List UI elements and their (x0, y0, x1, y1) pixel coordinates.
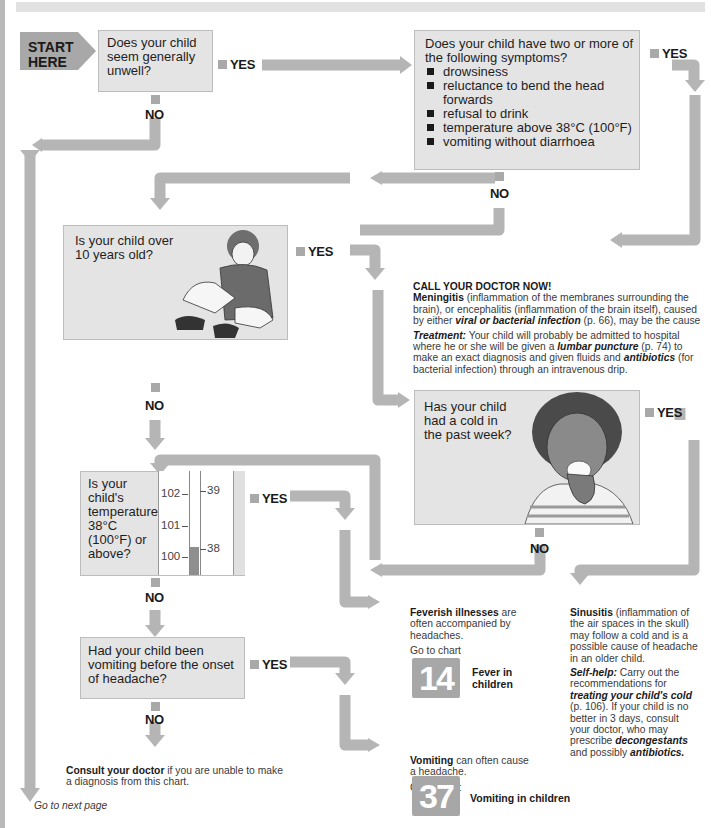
celsius-39: 39 (207, 484, 220, 496)
chart-37-title[interactable]: Vomiting in children (470, 792, 590, 804)
feverish-illnesses-note: Feverish illnesses are often accompanied… (410, 607, 520, 657)
link-decongestants[interactable]: decongestants (615, 735, 688, 746)
chart-14-title[interactable]: Fever in children (472, 666, 522, 690)
link-antibiotics[interactable]: antibiotics. (630, 747, 684, 758)
no-marker (495, 172, 504, 181)
thermometer-scale: 102 101 100 39 38 (158, 471, 245, 575)
symptom-item: temperature above 38°C (100°F) (425, 121, 637, 135)
celsius-38: 38 (207, 542, 220, 554)
fahrenheit-101: 101 (161, 519, 180, 531)
q5-yes-label: YES (262, 491, 287, 506)
symptom-item: refusal to drink (425, 107, 637, 121)
yes-marker (250, 494, 259, 503)
child-blowing-nose-illustration (515, 392, 639, 524)
no-marker (535, 528, 544, 537)
question-generally-unwell-text: Does your child seem generally unwell? (107, 36, 207, 78)
chart-37-link[interactable]: 37 (412, 776, 460, 816)
symptom-item: reluctance to bend the head forwards (425, 79, 637, 107)
thermometer-mercury (190, 547, 199, 575)
q6-no-label: NO (145, 712, 164, 727)
consult-doctor-note: Consult your doctor if you are unable to… (66, 765, 286, 788)
no-marker (151, 95, 160, 104)
question-symptoms-text: Does your child have two or more of the … (425, 37, 637, 149)
q3-no-label: NO (145, 398, 164, 413)
symptom-list: drowsiness reluctance to bend the head f… (425, 65, 637, 149)
fahrenheit-102: 102 (161, 487, 180, 499)
meningitis-advice: CALL YOUR DOCTOR NOW! Meningitis (inflam… (413, 281, 708, 375)
link-treating-cold[interactable]: treating your child's cold (570, 690, 692, 701)
question-vomiting-before-text: Had your child been vomiting before the … (88, 644, 243, 686)
chart-14-link[interactable]: 14 (412, 658, 460, 698)
yes-marker (645, 408, 654, 417)
go-to-next-page-link[interactable]: Go to next page (34, 800, 107, 811)
symptom-item: drowsiness (425, 65, 637, 79)
start-here-label: START HERE (28, 40, 74, 70)
q1-yes-label: YES (230, 57, 255, 72)
yes-marker (650, 49, 659, 58)
q4-yes-label: YES (657, 405, 682, 420)
symptom-item: vomiting without diarrhoea (425, 135, 637, 149)
link-antibiotics[interactable]: antibiotics (624, 352, 676, 363)
q5-no-label: NO (145, 590, 164, 605)
q6-yes-label: YES (262, 657, 287, 672)
no-marker (151, 383, 160, 392)
q4-no-label: NO (530, 541, 549, 556)
yes-marker (296, 247, 305, 256)
fahrenheit-100: 100 (161, 550, 180, 562)
question-over-10-text: Is your child over 10 years old? (75, 234, 175, 262)
question-cold-past-week-text: Has your child had a cold in the past we… (424, 400, 516, 442)
go-to-chart-label: Go to chart (410, 645, 520, 656)
q3-yes-label: YES (308, 244, 333, 259)
no-marker (151, 578, 160, 587)
no-marker (151, 702, 160, 711)
q2-yes-label: YES (662, 46, 687, 61)
link-viral-bacterial-infection[interactable]: viral or bacterial infection (455, 315, 580, 326)
boy-tying-shoe-illustration (165, 228, 285, 340)
call-doctor-heading: CALL YOUR DOCTOR NOW! (413, 281, 708, 292)
q1-no-label: NO (145, 107, 164, 122)
link-lumbar-puncture[interactable]: lumbar puncture (557, 341, 638, 352)
q2-no-label: NO (490, 186, 509, 201)
sinusitis-advice: Sinusitis (inflammation of the air space… (570, 607, 698, 758)
yes-marker (218, 60, 227, 69)
yes-marker (250, 660, 259, 669)
question-temperature-text: Is your child's temperature 38°C (100°F)… (88, 477, 160, 561)
